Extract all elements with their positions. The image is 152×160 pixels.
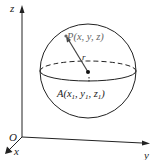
z-axis-label: z	[9, 2, 15, 14]
sphere-diagram: z y x O P(x, y, z) r A(x1, y1, z1)	[0, 0, 152, 160]
center-point-a	[86, 70, 90, 74]
x-axis-label: x	[13, 145, 19, 157]
z-axis-arrow-icon	[20, 5, 25, 13]
radius-label: r	[82, 52, 86, 62]
center-a-label: A(x1, y1, z1)	[56, 88, 105, 101]
point-p-label: P(x, y, z)	[66, 31, 104, 43]
y-axis	[22, 137, 142, 143]
y-axis-label: y	[143, 149, 149, 160]
y-axis-arrow-icon	[142, 141, 150, 146]
origin-label: O	[9, 131, 17, 143]
equator-back	[40, 61, 136, 71]
